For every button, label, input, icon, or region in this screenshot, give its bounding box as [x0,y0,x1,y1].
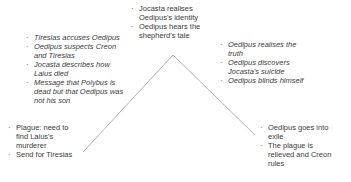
falling-action-notes: · Oedipus realises the truth · Oedipus d… [220,40,305,85]
bullet-icon: · [26,78,34,87]
exposition-notes: · Plague: need to find Laius's murderer … [8,123,73,159]
resolution-notes: · Oedipus goes into exile · The plague i… [260,123,338,168]
list-item: · The plague is relieved and Creon rules [260,141,338,168]
rising-note-text: Tiresias accuses Oedipus [34,33,129,42]
list-item: · Oedipus realises the truth [220,40,305,58]
falling-note-text: Oedipus realises the truth [228,40,305,58]
falling-note-text: Oedipus discovers Jocasta's suicide [228,58,305,76]
bullet-icon: · [220,40,228,49]
rising-note-text: Jocasta describes how Laius died [34,60,129,78]
bullet-icon: · [8,123,16,132]
list-item: · Plague: need to find Laius's murderer [8,123,73,150]
rising-note-text: Message that Polybus is dead but that Oe… [34,78,129,105]
bullet-icon: · [26,42,34,51]
exposition-note-text: Send for Tiresias [16,150,73,159]
bullet-icon: · [8,150,16,159]
list-item: · Oedipus goes into exile [260,123,338,141]
resolution-note-text: The plague is relieved and Creon rules [268,141,338,168]
bullet-icon: · [220,76,228,85]
bullet-icon: · [260,141,268,150]
resolution-note-text: Oedipus goes into exile [268,123,338,141]
rising-note-text: Oedipus suspects Creon and Tiresias [34,42,129,60]
list-item: · Jocasta describes how Laius died [26,60,129,78]
bullet-icon: · [26,33,34,42]
climax-note-text: Oedipus hears the shepherd's tale [139,22,211,40]
bullet-icon: · [220,58,228,67]
exposition-note-text: Plague: need to find Laius's murderer [16,123,73,150]
bullet-icon: · [260,123,268,132]
list-item: · Oedipus hears the shepherd's tale [131,22,211,40]
rising-action-notes: · Tiresias accuses Oedipus · Oedipus sus… [26,33,129,105]
list-item: · Oedipus suspects Creon and Tiresias [26,42,129,60]
list-item: · Tiresias accuses Oedipus [26,33,129,42]
climax-note-text: Jocasta realises Oedipus's identity [139,4,211,22]
list-item: · Send for Tiresias [8,150,73,159]
list-item: · Oedipus blinds himself [220,76,305,85]
climax-notes: · Jocasta realises Oedipus's identity · … [131,4,211,40]
list-item: · Oedipus discovers Jocasta's suicide [220,58,305,76]
list-item: · Message that Polybus is dead but that … [26,78,129,105]
bullet-icon: · [131,22,139,31]
bullet-icon: · [131,4,139,13]
list-item: · Jocasta realises Oedipus's identity [131,4,211,22]
plot-structure-diagram: · Jocasta realises Oedipus's identity · … [0,0,351,182]
falling-note-text: Oedipus blinds himself [228,76,305,85]
bullet-icon: · [26,60,34,69]
